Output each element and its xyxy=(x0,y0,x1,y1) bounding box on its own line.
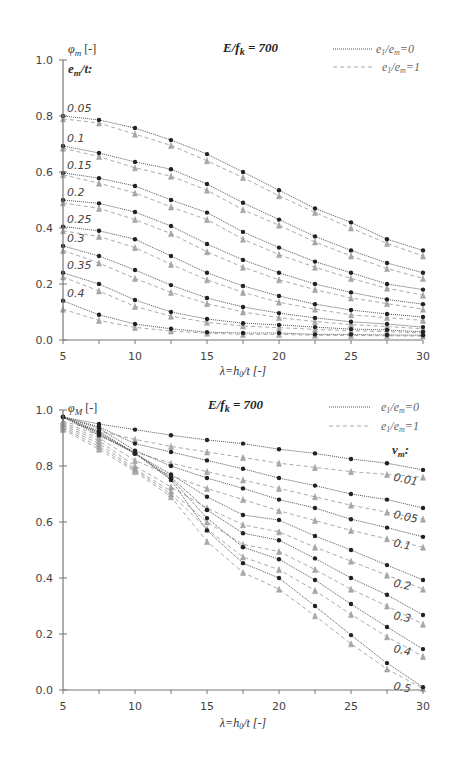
marker-dot-icon xyxy=(97,176,101,180)
marker-dot-icon xyxy=(313,556,317,560)
marker-triangle-icon xyxy=(277,567,282,573)
x-tick-label: 10 xyxy=(128,700,142,713)
series-label: 0.15 xyxy=(67,159,92,172)
marker-dot-icon xyxy=(313,206,317,210)
marker-triangle-icon xyxy=(277,586,282,592)
marker-dot-icon xyxy=(421,248,425,252)
marker-dot-icon xyxy=(385,661,389,665)
marker-triangle-icon xyxy=(421,653,426,659)
marker-dot-icon xyxy=(97,313,101,317)
marker-triangle-icon xyxy=(169,289,174,295)
y-tick-label: 0.6 xyxy=(36,516,54,529)
marker-dot-icon xyxy=(97,118,101,122)
chart-bottom-curves: 0.010.050.10.20.30.40.5 xyxy=(61,415,426,696)
marker-dot-icon xyxy=(313,332,317,336)
marker-dot-icon xyxy=(205,210,209,214)
marker-dot-icon xyxy=(133,184,137,188)
marker-dot-icon xyxy=(205,271,209,275)
marker-triangle-icon xyxy=(205,217,210,223)
marker-dot-icon xyxy=(421,613,425,617)
marker-triangle-icon xyxy=(169,204,174,210)
marker-dot-icon xyxy=(169,254,173,258)
series-label: 0.35 xyxy=(67,259,92,272)
chart-top-y-axis-label: φm [-] xyxy=(68,42,96,58)
y-tick-label: 0.4 xyxy=(36,222,54,235)
marker-dot-icon xyxy=(133,298,137,302)
marker-dot-icon xyxy=(277,331,281,335)
marker-dot-icon xyxy=(349,320,353,324)
x-tick-label: 15 xyxy=(200,700,214,713)
marker-dot-icon xyxy=(241,170,245,174)
marker-dot-icon xyxy=(349,576,353,580)
marker-dot-icon xyxy=(385,328,389,332)
marker-triangle-icon xyxy=(349,586,354,592)
marker-dot-icon xyxy=(205,317,209,321)
marker-dot-icon xyxy=(205,528,209,532)
marker-dot-icon xyxy=(385,563,389,567)
marker-dot-icon xyxy=(277,188,281,192)
marker-triangle-icon xyxy=(349,558,354,564)
y-tick-label: 1.0 xyxy=(36,54,54,67)
marker-dot-icon xyxy=(205,152,209,156)
x-tick-label: 25 xyxy=(344,700,358,713)
marker-triangle-icon xyxy=(313,567,318,573)
marker-dot-icon xyxy=(385,312,389,316)
marker-dot-icon xyxy=(313,316,317,320)
legend-item-e1-em-1: e1/em=1 xyxy=(382,60,420,75)
marker-dot-icon xyxy=(421,302,425,306)
chart-top-axes: 0.00.20.40.60.81.051015202530 xyxy=(36,54,431,363)
marker-triangle-icon xyxy=(205,187,210,193)
marker-dot-icon xyxy=(421,315,425,319)
marker-triangle-icon xyxy=(133,245,138,251)
marker-dot-icon xyxy=(241,467,245,471)
marker-dot-icon xyxy=(169,198,173,202)
chart-top-phi-m: 0.050.10.150.20.250.30.350.4 0.00.20.40.… xyxy=(36,40,431,379)
marker-dot-icon xyxy=(421,287,425,291)
marker-triangle-icon xyxy=(241,522,246,528)
series-label: 0.1 xyxy=(67,132,85,145)
chart-bottom-series-group-label: vm: xyxy=(392,442,409,459)
y-tick-label: 0.2 xyxy=(36,628,54,641)
marker-dot-icon xyxy=(421,325,425,329)
marker-dot-icon xyxy=(349,457,353,461)
marker-triangle-icon xyxy=(385,266,390,272)
legend-item-e1-em-1: e1/em=1 xyxy=(381,419,419,434)
series-line-e1-em-0 xyxy=(63,200,423,304)
x-tick-label: 10 xyxy=(128,350,142,363)
chart-top-series-group-label: em/t: xyxy=(68,61,92,78)
series-label: 0.2 xyxy=(392,577,412,593)
chart-bottom-axes: 0.00.20.40.60.81.051015202530 xyxy=(36,404,431,713)
marker-dot-icon xyxy=(169,310,173,314)
marker-dot-icon xyxy=(349,220,353,224)
chart-figure: 0.050.10.150.20.250.30.350.4 0.00.20.40.… xyxy=(0,0,451,763)
marker-triangle-icon xyxy=(313,544,318,550)
x-tick-label: 20 xyxy=(272,700,286,713)
chart-top-legend: e1/em=0 e1/em=1 xyxy=(333,42,420,75)
marker-dot-icon xyxy=(421,578,425,582)
series-label: 0.1 xyxy=(392,536,412,552)
marker-dot-icon xyxy=(277,476,281,480)
marker-dot-icon xyxy=(133,268,137,272)
y-tick-label: 0.0 xyxy=(36,334,54,347)
marker-dot-icon xyxy=(313,534,317,538)
marker-dot-icon xyxy=(241,561,245,565)
marker-dot-icon xyxy=(241,331,245,335)
marker-dot-icon xyxy=(421,333,425,337)
marker-dot-icon xyxy=(349,290,353,294)
marker-triangle-icon xyxy=(241,175,246,181)
series-label: 0.01 xyxy=(392,471,419,489)
chart-bottom-x-axis-label: λ=h0/t [-] xyxy=(219,716,267,731)
marker-dot-icon xyxy=(421,685,425,689)
marker-dot-icon xyxy=(97,282,101,286)
marker-dot-icon xyxy=(421,506,425,510)
x-tick-label: 25 xyxy=(344,350,358,363)
marker-triangle-icon xyxy=(97,317,102,323)
x-tick-label: 30 xyxy=(416,700,430,713)
marker-dot-icon xyxy=(133,322,137,326)
marker-triangle-icon xyxy=(97,233,102,239)
chart-top-title: E/fk = 700 xyxy=(222,40,279,57)
marker-dot-icon xyxy=(277,311,281,315)
marker-dot-icon xyxy=(97,254,101,258)
series-label: 0.5 xyxy=(392,679,412,695)
series-label: 0.3 xyxy=(392,609,412,625)
